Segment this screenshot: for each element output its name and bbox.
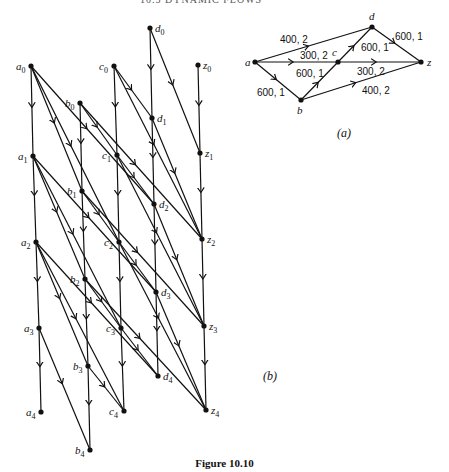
transit-edge-a0-d2 (31, 66, 154, 204)
transit-edge-a0-b1 (31, 66, 82, 191)
panel-b-label: (b) (263, 369, 277, 383)
node-label-a2: a2 (21, 236, 31, 251)
node-c4 (121, 408, 126, 413)
node-label-c1: c1 (102, 149, 111, 164)
transit-edge-a1-b2 (33, 156, 85, 279)
node-label-c2: c2 (104, 236, 113, 251)
node-a3 (36, 325, 41, 330)
holdover-edge-d1-d2 (152, 118, 154, 204)
node-b2 (82, 276, 87, 281)
holdover-edge-d2-d3 (154, 204, 156, 292)
holdover-edge-a1-a2 (33, 156, 36, 242)
node-d (369, 24, 374, 29)
node-label-b: b (297, 104, 303, 116)
static-network-graph-a: 400, 2300, 2600, 1600, 1600, 1600, 1300,… (245, 10, 432, 116)
node-z3 (201, 323, 206, 328)
node-label-z3: z3 (208, 320, 217, 335)
node-z0 (195, 62, 200, 67)
transit-edge-b2-c3 (85, 279, 121, 328)
node-label-a3: a3 (24, 322, 34, 337)
transit-edge-d3-z4 (156, 292, 206, 410)
node-label-a1: a1 (18, 150, 28, 165)
node-label-d0: d0 (155, 22, 165, 37)
holdover-edge-z1-z2 (200, 153, 202, 239)
node-label-d1: d1 (157, 112, 167, 127)
node-label-z: z (426, 56, 432, 68)
node-b (298, 97, 303, 102)
edge-label-c-d: 600, 1 (361, 42, 389, 53)
transit-edge-b0-z2 (80, 103, 202, 239)
holdover-edge-z3-z4 (204, 326, 206, 410)
edge-label-b-c: 600, 1 (296, 68, 324, 79)
node-label-c0: c0 (99, 60, 108, 75)
edge-label-c-z: 300, 2 (357, 66, 385, 77)
transit-edge-a3-b4 (39, 328, 90, 450)
node-z2 (199, 236, 204, 241)
node-z (418, 59, 423, 64)
holdover-edge-b1-b2 (82, 191, 85, 279)
transit-edge-b2-z4 (85, 279, 206, 410)
node-label-c3: c3 (106, 322, 115, 337)
holdover-edge-a0-a1 (31, 66, 33, 156)
figure-canvas: 400, 2300, 2600, 1600, 1600, 1600, 1300,… (0, 0, 449, 472)
node-c1 (114, 152, 119, 157)
figure-caption: Figure 10.10 (0, 457, 449, 469)
node-label-c4: c4 (109, 405, 118, 420)
edge-label-a-d: 400, 2 (280, 34, 308, 45)
node-d1 (149, 115, 154, 120)
node-b3 (85, 363, 90, 368)
node-c (335, 59, 340, 64)
transit-edge-b0-c1 (80, 103, 117, 155)
edge-label-b-z: 400, 2 (362, 85, 390, 96)
holdover-edge-b0-b1 (80, 103, 82, 191)
node-z1 (197, 150, 202, 155)
node-a4 (38, 409, 43, 414)
time-expanded-network-graph-b: a0a1a2a3a4b0b1b2b3b4c0c1c2c3c4d0d1d2d3d4… (16, 22, 219, 459)
node-label-b1: b1 (67, 185, 77, 200)
node-label-b0: b0 (65, 97, 75, 112)
transit-edge-c1-z3 (117, 155, 204, 326)
holdover-edge-b3-b4 (88, 366, 90, 450)
holdover-edge-d0-d1 (150, 28, 152, 118)
transit-edge-c2-z4 (119, 242, 206, 410)
node-a (252, 59, 257, 64)
node-a1 (30, 153, 35, 158)
node-d3 (153, 289, 158, 294)
holdover-edge-c3-c4 (121, 328, 124, 411)
edge-label-d-z: 600, 1 (395, 31, 423, 42)
transit-edge-d0-z1 (150, 28, 200, 153)
transit-edge-d2-z3 (154, 204, 204, 326)
node-label-b3: b3 (73, 360, 83, 375)
node-label-z0: z0 (202, 59, 211, 74)
node-label-z1: z1 (204, 147, 213, 162)
node-b0 (77, 100, 82, 105)
holdover-edge-c1-c2 (117, 155, 119, 242)
node-label-d: d (369, 10, 375, 22)
transit-edge-b3-c4 (88, 366, 124, 411)
node-d4 (155, 373, 160, 378)
holdover-edge-a3-a4 (39, 328, 41, 412)
node-label-c: c (332, 46, 337, 58)
transit-edge-a2-b3 (36, 242, 88, 366)
node-b4 (87, 447, 92, 452)
holdover-edge-z0-z1 (198, 65, 200, 153)
holdover-edge-b2-b3 (85, 279, 88, 366)
edge-label-a-b: 600, 1 (257, 87, 285, 98)
node-c2 (116, 239, 121, 244)
transit-edge-b1-z3 (82, 191, 204, 326)
node-a0 (28, 63, 33, 68)
edge-label-a-c: 300, 2 (300, 50, 328, 61)
transit-edge-c0-d1 (114, 66, 152, 118)
node-label-a: a (245, 56, 251, 68)
node-c0 (111, 63, 116, 68)
node-label-z4: z4 (210, 404, 219, 419)
holdover-edge-c2-c3 (119, 242, 121, 328)
node-label-a4: a4 (26, 406, 36, 421)
transit-edge-a2-d4 (36, 242, 158, 376)
transit-edge-d1-z2 (152, 118, 202, 239)
holdover-edge-d3-d4 (156, 292, 158, 376)
node-a2 (33, 239, 38, 244)
node-label-d3: d3 (161, 286, 171, 301)
node-label-b2: b2 (70, 273, 80, 288)
holdover-edge-a2-a3 (36, 242, 39, 328)
